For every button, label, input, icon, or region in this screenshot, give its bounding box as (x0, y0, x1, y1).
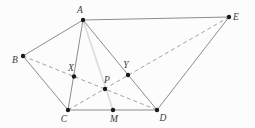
point-label-C: C (61, 114, 68, 124)
point-label-M: M (109, 114, 119, 124)
point-dot-P (103, 87, 107, 91)
edge-A-M (83, 20, 113, 110)
point-dot-Y (126, 73, 130, 77)
point-dot-M (111, 108, 115, 112)
point-dot-D (155, 108, 159, 112)
edge-D-E (157, 17, 229, 110)
point-labels-layer: ABCMDEXYP (12, 5, 239, 124)
point-dot-X (72, 74, 76, 78)
point-label-X: X (67, 63, 75, 73)
point-label-B: B (12, 55, 18, 65)
light-edges-layer (83, 20, 113, 110)
point-label-D: D (159, 113, 167, 123)
point-dot-C (66, 108, 70, 112)
edge-B-D (23, 56, 157, 110)
point-dot-B (21, 54, 25, 58)
edge-A-D (83, 20, 157, 110)
edge-A-B (23, 20, 83, 56)
point-label-A: A (76, 5, 83, 15)
point-label-P: P (103, 75, 110, 85)
edge-A-E (83, 17, 229, 20)
diagram-svg: ABCMDEXYP (0, 0, 255, 128)
point-label-E: E (232, 12, 239, 22)
edge-B-C (23, 56, 68, 110)
point-dot-A (81, 18, 85, 22)
point-dot-E (227, 15, 231, 19)
point-label-Y: Y (123, 60, 130, 70)
geometry-diagram: ABCMDEXYP (0, 0, 255, 128)
